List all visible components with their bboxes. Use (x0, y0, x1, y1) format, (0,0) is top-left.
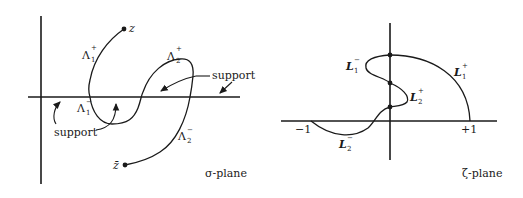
svg-text:Λ: Λ (76, 102, 86, 115)
svg-text:+: + (91, 44, 97, 52)
svg-text:+: + (418, 87, 424, 95)
point-z-bar (123, 163, 128, 168)
svg-text:1: 1 (91, 56, 95, 64)
svg-text:−: − (354, 56, 360, 64)
svg-text:−: − (86, 98, 92, 106)
svg-text:2: 2 (347, 145, 351, 153)
tick-plus-one: +1 (461, 123, 477, 136)
point-middle (388, 81, 393, 86)
support-arrow-right-1 (161, 76, 196, 91)
svg-text:1: 1 (354, 67, 358, 75)
label-z-bar: z̄ (112, 159, 119, 172)
svg-text:Λ: Λ (166, 50, 176, 63)
curve-lambda2-plus (143, 59, 193, 97)
label-support-right: support (212, 69, 256, 82)
label-zeta-plane: ζ-plane (462, 167, 502, 180)
curve-L2-plus (390, 83, 408, 107)
svg-text:Λ: Λ (81, 49, 91, 62)
support-arrow-right-2 (220, 82, 232, 93)
label-lambda1-plus: Λ + 1 (81, 44, 97, 64)
svg-text:L: L (409, 91, 418, 104)
zeta-plane-diagram (281, 23, 497, 160)
svg-text:L: L (338, 138, 347, 151)
point-lower (388, 105, 393, 110)
svg-text:+: + (176, 45, 182, 53)
label-L2-plus: L + 2 (409, 87, 424, 106)
diagram-canvas: z z̄ Λ + 1 Λ − 1 Λ + 2 Λ − 2 support sup… (0, 0, 523, 198)
point-z (122, 27, 127, 32)
svg-text:1: 1 (86, 109, 90, 117)
label-sigma-plane: σ-plane (205, 167, 247, 180)
svg-text:Λ: Λ (177, 130, 187, 143)
svg-text:2: 2 (176, 57, 180, 65)
svg-text:1: 1 (462, 73, 466, 81)
curve-L1-minus (366, 55, 390, 83)
label-lambda1-minus: Λ − 1 (76, 98, 92, 117)
label-z: z (128, 22, 135, 35)
label-support-left: support (54, 126, 98, 139)
label-L1-plus: L + 1 (453, 62, 468, 81)
svg-text:−: − (187, 126, 193, 134)
curve-L1-plus (390, 55, 470, 121)
svg-text:L: L (345, 60, 354, 73)
point-top (388, 53, 393, 58)
support-arrow-left-2 (96, 104, 116, 130)
label-lambda2-plus: Λ + 2 (166, 45, 182, 65)
svg-text:L: L (453, 66, 462, 79)
label-L2-minus: L − 2 (338, 134, 353, 153)
sigma-plane-diagram (28, 16, 240, 184)
tick-minus-one: −1 (295, 123, 311, 136)
svg-text:2: 2 (187, 137, 191, 145)
svg-text:2: 2 (418, 98, 422, 106)
svg-text:−: − (347, 134, 353, 142)
support-arrow-left-1 (54, 102, 60, 124)
label-L1-minus: L − 1 (345, 56, 360, 75)
svg-text:+: + (462, 62, 468, 70)
